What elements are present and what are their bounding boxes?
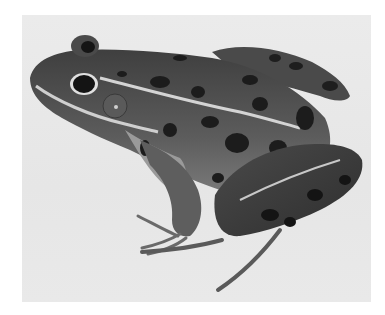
hind-foot <box>142 230 280 290</box>
frog-illustration <box>0 0 385 315</box>
far-eye-icon <box>81 41 95 53</box>
